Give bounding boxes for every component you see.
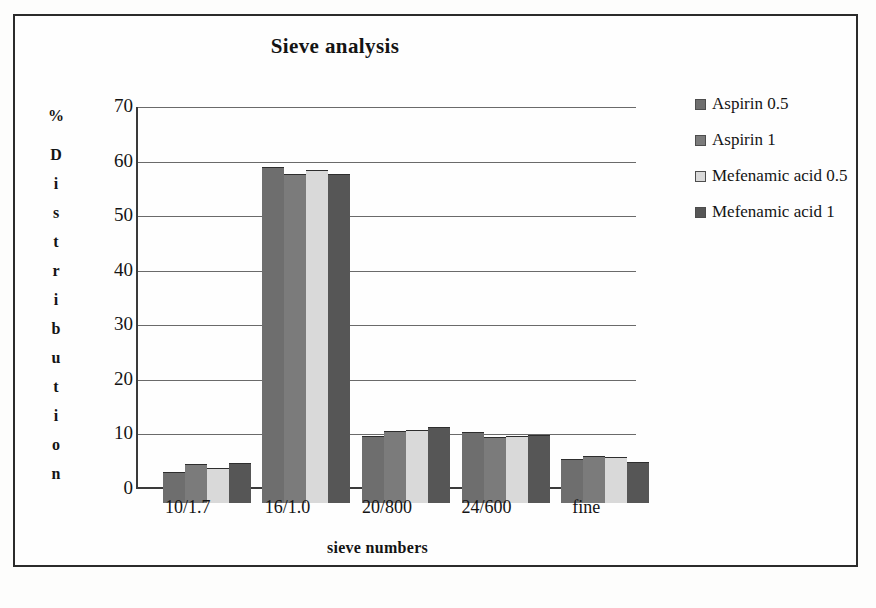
bar [462, 432, 484, 503]
bar-group [561, 121, 649, 503]
legend-swatch-icon [695, 99, 706, 110]
y-axis-title-letter: i [39, 401, 73, 430]
page-canvas: Sieve analysis % Distribution 0102030405… [0, 0, 876, 608]
chart-legend: Aspirin 0.5Aspirin 1Mefenamic acid 0.5Me… [695, 94, 863, 238]
y-axis-title-letter: i [39, 285, 73, 314]
y-axis-tick-label: 50 [87, 204, 133, 226]
legend-swatch-icon [695, 135, 706, 146]
x-axis-title: sieve numbers [119, 539, 636, 557]
y-axis-title-letter: b [39, 314, 73, 343]
bar [506, 436, 528, 503]
bar [484, 437, 506, 503]
chart-title: Sieve analysis [15, 34, 655, 59]
y-axis-title: % Distribution [39, 108, 73, 488]
bar [328, 174, 350, 503]
y-axis-tick-label: 10 [87, 422, 133, 444]
chart-frame: Sieve analysis % Distribution 0102030405… [13, 14, 858, 567]
y-axis-unit-percent: % [39, 108, 73, 124]
y-axis-title-letter: t [39, 227, 73, 256]
legend-item[interactable]: Mefenamic acid 0.5 [695, 166, 863, 186]
bar-group [462, 121, 550, 503]
y-axis-title-letter: i [39, 169, 73, 198]
y-axis-tick-label: 40 [87, 259, 133, 281]
y-axis-tick-label: 60 [87, 150, 133, 172]
legend-item[interactable]: Aspirin 0.5 [695, 94, 863, 114]
bar [428, 427, 450, 503]
y-axis-tick-label: 0 [87, 477, 133, 499]
bar [262, 167, 284, 503]
bar [384, 431, 406, 503]
y-axis-title-letter: n [39, 459, 73, 488]
legend-swatch-icon [695, 171, 706, 182]
y-axis-title-letter: D [39, 140, 73, 169]
bar-group [163, 121, 251, 503]
gridline [138, 107, 636, 108]
bars-layer [157, 121, 655, 503]
bar [583, 456, 605, 503]
x-axis-tick-label: fine [526, 497, 646, 518]
y-axis-title-letter: r [39, 256, 73, 285]
y-axis-title-letter: u [39, 343, 73, 372]
y-axis-title-letter: s [39, 198, 73, 227]
y-axis-title-letter: o [39, 430, 73, 459]
y-axis-tick-label: 20 [87, 368, 133, 390]
legend-label: Mefenamic acid 1 [712, 202, 835, 222]
bar-group [262, 121, 350, 503]
plot-inner-rect [136, 107, 636, 489]
legend-item[interactable]: Mefenamic acid 1 [695, 202, 863, 222]
plot-area: 010203040506070 10/1.716/1.020/80024/600… [119, 93, 636, 489]
y-axis-tick-label: 30 [87, 313, 133, 335]
bar [284, 174, 306, 503]
bar-group [362, 121, 450, 503]
bar [306, 170, 328, 503]
legend-swatch-icon [695, 207, 706, 218]
legend-label: Aspirin 0.5 [712, 94, 789, 114]
legend-item[interactable]: Aspirin 1 [695, 130, 863, 150]
y-axis-title-letters: Distribution [39, 140, 73, 488]
y-axis-tick-label: 70 [87, 95, 133, 117]
bar [362, 436, 384, 503]
legend-label: Mefenamic acid 0.5 [712, 166, 847, 186]
legend-label: Aspirin 1 [712, 130, 776, 150]
bar [406, 430, 428, 503]
bar [528, 435, 550, 503]
y-axis-title-letter: t [39, 372, 73, 401]
